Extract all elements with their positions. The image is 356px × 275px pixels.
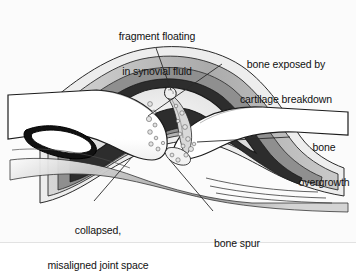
label-overgrowth-line2: overgrowth — [292, 177, 356, 189]
label-collapsed-line1: collapsed, — [12, 225, 184, 237]
label-fragment-line2: in synovial fluid — [96, 66, 218, 78]
label-bone-exposed-by-cartilage-breakdown: bone exposed by cartilage breakdown — [216, 36, 356, 129]
label-bone-overgrowth: bone overgrowth — [292, 119, 356, 212]
label-overgrowth-line1: bone — [292, 142, 356, 154]
label-collapsed-misaligned-joint-space: collapsed, misaligned joint space — [12, 202, 184, 275]
label-spur-line1: bone spur — [188, 238, 286, 250]
label-fragment-floating-in-synovial-fluid: fragment floating in synovial fluid — [96, 8, 218, 101]
label-exposed-line2: cartilage breakdown — [216, 94, 356, 106]
label-collapsed-line2: misaligned joint space — [12, 260, 184, 272]
label-exposed-line1: bone exposed by — [216, 59, 356, 71]
label-bone-spur: bone spur — [188, 215, 286, 273]
label-fragment-line1: fragment floating — [96, 31, 218, 43]
